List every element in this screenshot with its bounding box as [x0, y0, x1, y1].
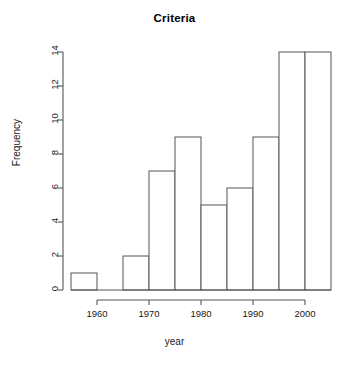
- histogram-bar: [71, 273, 97, 290]
- y-axis-tick-label: 12: [49, 72, 60, 98]
- y-axis-tick-label: 0: [49, 276, 60, 302]
- y-axis-tick-label: 4: [49, 208, 60, 234]
- x-axis-tick-label: 1970: [129, 308, 169, 319]
- histogram-bar: [253, 137, 279, 290]
- x-axis-tick-label: 2000: [285, 308, 325, 319]
- x-axis-tick-label: 1990: [233, 308, 273, 319]
- y-axis-tick-label: 8: [49, 140, 60, 166]
- histogram-figure: Criteria Frequency year 0246810121419601…: [0, 0, 349, 369]
- histogram-bar: [123, 256, 149, 290]
- histogram-bar: [305, 52, 331, 290]
- x-axis-tick-label: 1960: [77, 308, 117, 319]
- y-axis-tick-label: 14: [49, 38, 60, 64]
- histogram-bar: [279, 52, 305, 290]
- histogram-bar: [227, 188, 253, 290]
- y-axis-tick-label: 6: [49, 174, 60, 200]
- histogram-bar: [175, 137, 201, 290]
- histogram-bar: [201, 205, 227, 290]
- y-axis-tick-label: 10: [49, 106, 60, 132]
- histogram-bar: [149, 171, 175, 290]
- x-axis-tick-label: 1980: [181, 308, 221, 319]
- y-axis-tick-label: 2: [49, 242, 60, 268]
